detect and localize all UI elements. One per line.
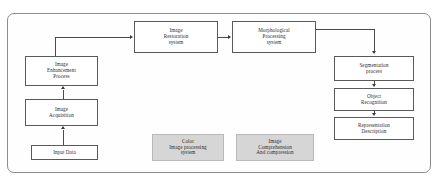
edge-input-to-acquisition-line — [63, 130, 64, 145]
node-object-recognition[interactable]: Object Recognition — [334, 88, 414, 111]
edge-morphological-to-segmentation-arrowhead — [372, 51, 376, 54]
node-label: Image Acquisition — [27, 107, 96, 118]
node-label: Object Recognition — [336, 94, 412, 105]
node-label: Image Restoration system — [136, 28, 216, 45]
edge-object-to-representation-arrowhead — [372, 113, 376, 116]
node-label: Representation Description — [336, 123, 412, 134]
diagram-canvas: Image Restoration system Morphological P… — [0, 0, 439, 188]
node-color-image-processing[interactable]: Color Image processing system — [152, 134, 224, 161]
node-label: Segmentation process — [336, 63, 412, 74]
edge-morphological-to-segmentation-horizontal — [316, 29, 374, 30]
node-image-acquisition[interactable]: Image Acquisition — [25, 99, 98, 126]
node-label: Image Comprehension And compression — [238, 139, 312, 156]
node-morphological-processing[interactable]: Morphological Processing system — [232, 21, 316, 53]
edge-enhancement-to-restoration-horizontal — [55, 37, 131, 38]
node-label: Image Enhancement Process — [27, 62, 96, 79]
node-label: Input Data — [33, 150, 96, 156]
node-representation-description[interactable]: Representation Description — [334, 117, 414, 140]
node-image-restoration[interactable]: Image Restoration system — [134, 21, 218, 53]
edge-segmentation-to-object-arrowhead — [372, 84, 376, 87]
node-label: Color Image processing system — [154, 139, 222, 156]
node-image-comprehension[interactable]: Image Comprehension And compression — [236, 134, 314, 161]
edge-acquisition-to-enhancement-line — [63, 90, 64, 99]
edge-restoration-to-morphological-arrowhead — [228, 35, 231, 39]
edge-enhancement-to-restoration-vertical — [55, 37, 56, 56]
node-label: Morphological Processing system — [234, 28, 314, 45]
node-image-enhancement[interactable]: Image Enhancement Process — [25, 56, 98, 86]
node-segmentation-process[interactable]: Segmentation process — [334, 56, 414, 81]
edge-input-to-acquisition-arrowhead — [61, 126, 65, 129]
node-input-data[interactable]: Input Data — [31, 145, 98, 160]
edge-acquisition-to-enhancement-arrowhead — [61, 86, 65, 89]
edge-morphological-to-segmentation-vertical — [374, 29, 375, 52]
edge-enhancement-to-restoration-arrowhead — [130, 35, 133, 39]
